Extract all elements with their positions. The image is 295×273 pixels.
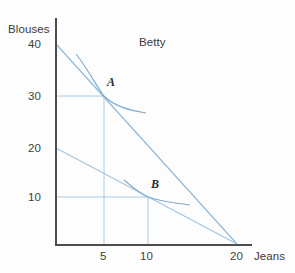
- guidelines-point-b: [56, 197, 148, 244]
- y-tick-label-10: 10: [28, 191, 41, 203]
- y-tick-label-40: 40: [28, 38, 41, 50]
- y-tick-label-30: 30: [28, 90, 41, 102]
- x-tick-label-10: 10: [140, 250, 153, 262]
- chart-title: Betty: [139, 36, 166, 48]
- point-label-a: A: [107, 76, 115, 88]
- point-label-b: B: [151, 178, 159, 190]
- x-axis-title: Jeans: [254, 250, 285, 262]
- y-axis-title: Blouses: [8, 23, 50, 35]
- y-tick-label-20: 20: [28, 142, 41, 154]
- economics-indifference-curve-figure: Blouses Betty 40 30 20 10 5 10 20 Jeans …: [0, 0, 295, 273]
- budget-line-high: [56, 44, 237, 244]
- x-tick-label-5: 5: [100, 250, 107, 262]
- x-tick-label-20: 20: [230, 250, 243, 262]
